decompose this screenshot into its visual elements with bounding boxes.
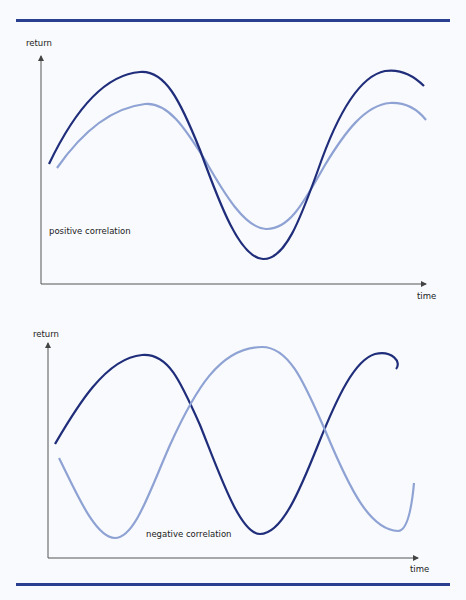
series-light-positive: [57, 103, 426, 229]
chart-negative-correlation: return time negative correlation: [33, 329, 429, 574]
y-axis-label: return: [26, 38, 52, 48]
x-axis-label: time: [410, 564, 429, 574]
x-axis-label: time: [417, 291, 436, 301]
series-dark-negative: [55, 353, 398, 534]
y-axis-label: return: [33, 329, 59, 339]
correlation-charts: return time positive correlation return …: [0, 0, 466, 600]
annotation-positive-correlation: positive correlation: [49, 226, 131, 236]
annotation-negative-correlation: negative correlation: [146, 529, 232, 539]
chart-positive-correlation: return time positive correlation: [26, 38, 436, 301]
